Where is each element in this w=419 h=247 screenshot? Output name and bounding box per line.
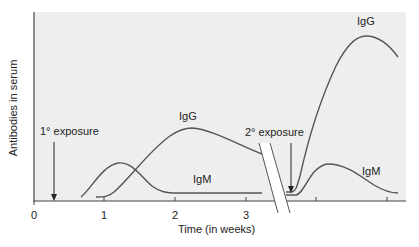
x-tick-2: 2 <box>172 209 178 221</box>
secondary-exposure-label: 2° exposure <box>245 127 304 138</box>
primary-exposure-label: 1° exposure <box>40 126 99 137</box>
antibody-response-chart: Antibodies in serum 0 1 2 3 Time (in wee… <box>0 0 419 247</box>
x-tick-1: 1 <box>101 209 107 221</box>
igm-secondary-label: IgM <box>362 166 380 177</box>
y-axis-label: Antibodies in serum <box>7 60 19 157</box>
chart-canvas <box>0 0 419 247</box>
x-tick-0: 0 <box>31 209 37 221</box>
igg-secondary-label: IgG <box>357 16 375 27</box>
igg-primary-label: IgG <box>179 111 197 122</box>
x-axis-label: Time (in weeks) <box>178 224 255 235</box>
igm-primary-label: IgM <box>193 174 211 185</box>
plot-panel <box>34 12 406 201</box>
x-tick-3: 3 <box>243 209 249 221</box>
